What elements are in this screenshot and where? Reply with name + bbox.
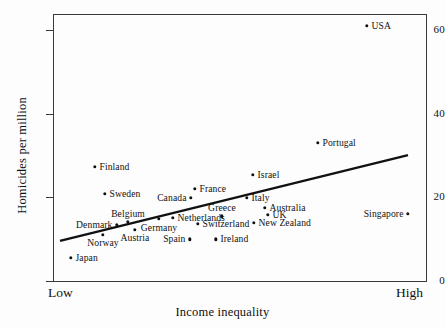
data-point-label: Belgium [111, 209, 145, 219]
x-axis-high-label: High [396, 285, 423, 301]
x-axis-title: Income inequality [0, 305, 445, 320]
data-point-label: USA [372, 21, 392, 31]
y-tick-mark [46, 281, 53, 282]
data-point-label: Israel [258, 170, 280, 180]
data-point-label: New Zealand [259, 218, 312, 228]
y-tick-mark [46, 114, 53, 115]
data-point-label: France [200, 184, 227, 194]
data-point-label: Italy [252, 193, 270, 203]
data-point-label: Japan [76, 253, 98, 263]
data-point-label: Norway [87, 238, 119, 248]
x-axis-low-label: Low [48, 285, 73, 301]
data-point-label: Spain [163, 234, 185, 244]
y-tick-mark [46, 197, 53, 198]
y-tick-mark [46, 30, 53, 31]
data-point-label: Switzerland [203, 219, 250, 229]
data-point-label: Portugal [323, 138, 356, 148]
data-point-label: Ireland [221, 234, 249, 244]
data-point-label: Singapore [364, 209, 404, 219]
y-axis-title: Homicides per million [15, 61, 30, 251]
data-point-label: Sweden [110, 189, 141, 199]
data-point-label: Denmark [76, 220, 112, 230]
data-point-label: Austria [121, 233, 150, 243]
data-point-label: Canada [157, 193, 186, 203]
data-point-label: Finland [100, 162, 130, 172]
scatter-plot-figure: Homicides per million 0204060 USAPortuga… [0, 0, 445, 328]
data-point-label: Germany [141, 223, 177, 233]
